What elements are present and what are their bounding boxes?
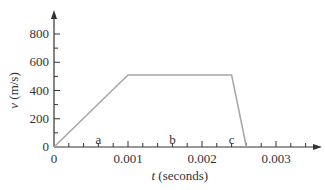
y-tick-label: 200 — [30, 111, 50, 126]
velocity-time-chart: 00.0010.0020.0030200400600800t (seconds)… — [0, 0, 325, 190]
y-axis-label: v (m/s) — [6, 72, 21, 108]
x-tick-label: 0.001 — [113, 151, 142, 166]
x-tick-label: 0.002 — [187, 151, 216, 166]
x-tick-label: 0 — [51, 151, 58, 166]
y-axis-arrow-icon — [51, 10, 57, 19]
region-label-a: a — [96, 132, 102, 147]
region-label-c: c — [229, 132, 235, 147]
x-axis-arrow-icon — [313, 144, 322, 150]
x-axis-label: t (seconds) — [151, 168, 208, 183]
y-tick-label: 400 — [30, 83, 50, 98]
y-tick-label: 800 — [30, 26, 50, 41]
x-tick-label: 0.003 — [261, 151, 290, 166]
y-tick-label: 0 — [43, 139, 50, 154]
velocity-line — [54, 75, 246, 147]
y-tick-label: 600 — [30, 54, 50, 69]
region-label-b: b — [169, 132, 176, 147]
